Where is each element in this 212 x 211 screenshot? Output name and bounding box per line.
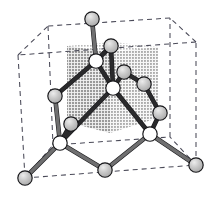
- atom-gray-a7: [48, 89, 62, 103]
- atom-gray-a1: [85, 12, 99, 26]
- bond-a9-a13: [60, 143, 105, 170]
- atom-gray-a2: [104, 39, 118, 53]
- atom-white-a9: [53, 136, 67, 150]
- atom-white-a5: [106, 81, 120, 95]
- crystal-structure-figure: [0, 0, 212, 211]
- atom-gray-a6: [137, 77, 151, 91]
- unit-cell-edge: [48, 18, 170, 26]
- bond-a11-a14: [150, 134, 196, 165]
- atom-gray-a12: [18, 171, 32, 185]
- atom-gray-a8: [64, 117, 78, 131]
- atom-gray-a13: [98, 163, 112, 177]
- unit-cell-edge: [170, 18, 196, 42]
- atom-white-a11: [143, 127, 157, 141]
- atom-white-a3: [89, 54, 103, 68]
- unit-cell-edge: [18, 26, 48, 55]
- unit-cell-edge: [18, 55, 25, 178]
- atom-gray-a10: [153, 106, 167, 120]
- atom-gray-a14: [189, 158, 203, 172]
- unit-cell-edge: [48, 26, 53, 145]
- atom-gray-a4: [117, 65, 131, 79]
- crystal-structure-canvas: [0, 0, 212, 211]
